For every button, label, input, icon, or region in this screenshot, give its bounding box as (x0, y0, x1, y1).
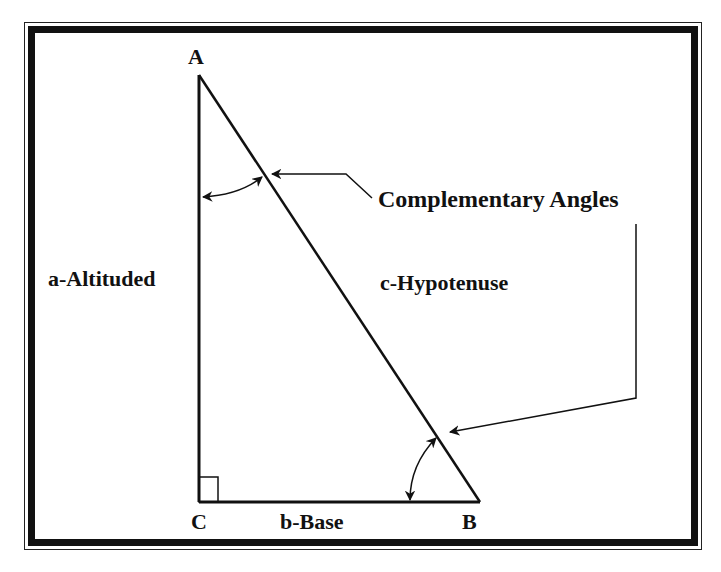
altitude-label: a-Altituded (48, 266, 156, 292)
base-label: b-Base (280, 509, 344, 535)
hypotenuse-label: c-Hypotenuse (380, 270, 508, 296)
vertex-a-label: A (188, 44, 204, 70)
vertex-b-label: B (462, 509, 477, 535)
angle-arc-b (410, 438, 436, 500)
complementary-angles-label: Complementary Angles (378, 186, 619, 213)
pointer-arrow-b (450, 224, 636, 432)
right-angle-marker (199, 477, 218, 502)
angle-arc-a (203, 177, 262, 197)
pointer-arrow-a (272, 174, 372, 198)
vertex-c-label: C (191, 509, 207, 535)
